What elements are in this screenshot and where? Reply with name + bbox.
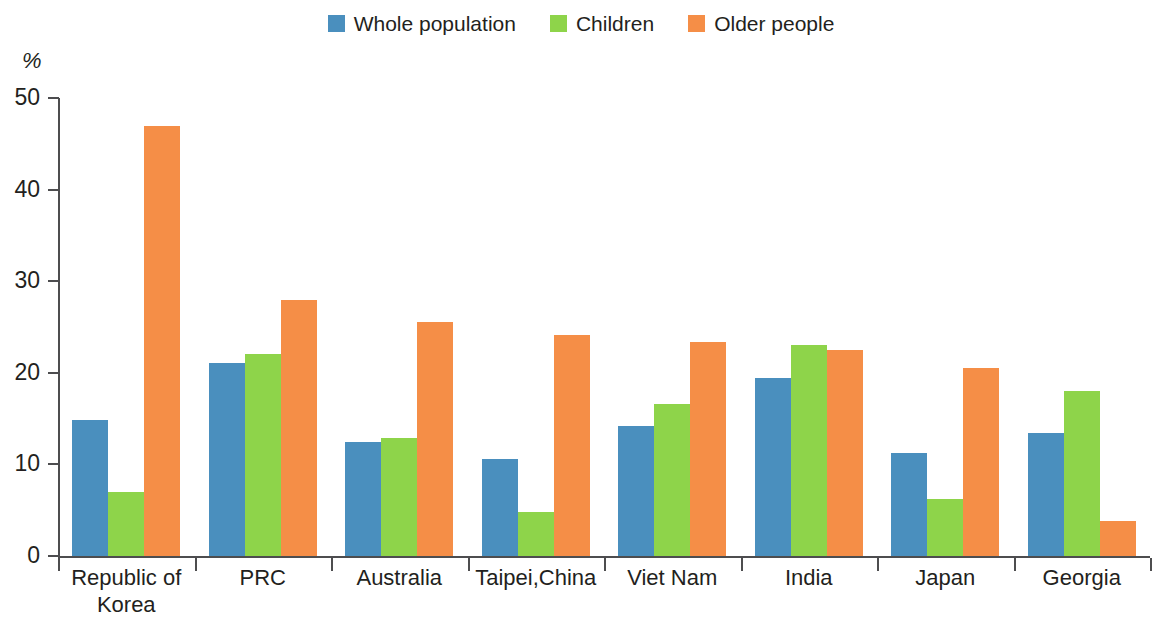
x-axis-category-labels: Republic ofKoreaPRCAustraliaTaipei,China… <box>0 564 1162 624</box>
chart-legend: Whole populationChildrenOlder people <box>0 8 1162 38</box>
x-axis-category-label: India <box>741 564 878 591</box>
bar <box>144 126 180 556</box>
x-axis-category-label: Taipei,China <box>468 564 605 591</box>
bar <box>791 345 827 556</box>
legend-label: Children <box>576 13 654 34</box>
x-axis-category-label-line: Georgia <box>1014 564 1151 591</box>
legend-label: Whole population <box>354 13 516 34</box>
x-axis-category-label: Georgia <box>1014 564 1151 591</box>
chart-plot-area: % 50403020100 Republic ofKoreaPRCAustral… <box>0 40 1162 625</box>
legend-item: Older people <box>688 13 834 34</box>
x-axis-category-label: PRC <box>195 564 332 591</box>
bar <box>963 368 999 556</box>
bar <box>654 404 690 556</box>
bar <box>1100 521 1136 556</box>
bar <box>209 363 245 556</box>
x-axis-category-label-line: Korea <box>58 591 195 618</box>
bar <box>690 342 726 556</box>
bar <box>245 354 281 556</box>
bar <box>281 300 317 556</box>
bar <box>345 442 381 556</box>
legend-swatch-icon <box>328 15 345 32</box>
legend-swatch-icon <box>550 15 567 32</box>
bar <box>755 378 791 556</box>
legend-label: Older people <box>714 13 834 34</box>
bar <box>108 492 144 556</box>
x-axis-category-label: Republic ofKorea <box>58 564 195 618</box>
x-axis-category-label: Australia <box>331 564 468 591</box>
x-axis-category-label-line: PRC <box>195 564 332 591</box>
bar <box>927 499 963 556</box>
bar <box>72 420 108 556</box>
x-axis-category-label-line: Viet Nam <box>604 564 741 591</box>
legend-item: Whole population <box>328 13 516 34</box>
bar <box>618 426 654 556</box>
bar <box>554 335 590 556</box>
bar <box>891 453 927 556</box>
x-axis-category-label-line: Japan <box>877 564 1014 591</box>
bar <box>1064 391 1100 556</box>
bar <box>827 350 863 556</box>
x-axis-category-label: Japan <box>877 564 1014 591</box>
x-axis-category-label-line: India <box>741 564 878 591</box>
bar <box>381 438 417 556</box>
legend-swatch-icon <box>688 15 705 32</box>
bars-layer <box>0 40 1162 625</box>
x-axis-category-label-line: Taipei,China <box>468 564 605 591</box>
legend-item: Children <box>550 13 654 34</box>
bar <box>417 322 453 556</box>
x-axis-category-label-line: Australia <box>331 564 468 591</box>
bar <box>1028 433 1064 556</box>
bar <box>482 459 518 556</box>
x-axis-category-label-line: Republic of <box>58 564 195 591</box>
x-axis-category-label: Viet Nam <box>604 564 741 591</box>
bar <box>518 512 554 556</box>
